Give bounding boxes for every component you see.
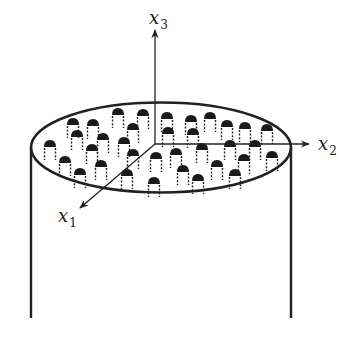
axis-label-x1: x1 — [58, 205, 77, 230]
bump — [187, 128, 199, 148]
bump — [71, 130, 83, 150]
bump — [177, 165, 189, 185]
bump — [137, 109, 149, 129]
bump — [196, 143, 208, 163]
cylinder-diagram: x1x2x3 — [0, 0, 355, 341]
bump — [238, 154, 250, 174]
axis-labels: x1x2x3 — [58, 7, 337, 230]
diagram-svg: x1x2x3 — [0, 0, 355, 341]
bump — [97, 133, 109, 153]
bump — [95, 160, 107, 180]
bump — [261, 124, 273, 144]
bump — [59, 156, 71, 176]
bump — [150, 152, 162, 172]
bump — [44, 140, 56, 160]
axis-label-x2: x2 — [318, 133, 337, 158]
bump — [148, 177, 160, 197]
top-ellipse — [31, 103, 291, 193]
bump — [239, 122, 251, 142]
axis-label-x3: x3 — [149, 7, 168, 32]
bump — [249, 140, 261, 160]
bump — [86, 144, 98, 164]
bump — [221, 120, 233, 140]
bump — [87, 119, 99, 139]
bump — [204, 112, 216, 132]
bump — [112, 108, 124, 128]
bump — [224, 140, 236, 160]
bump — [211, 160, 223, 180]
axis-x1 — [80, 144, 155, 208]
cylinder-body — [31, 103, 291, 319]
bump — [170, 148, 182, 168]
